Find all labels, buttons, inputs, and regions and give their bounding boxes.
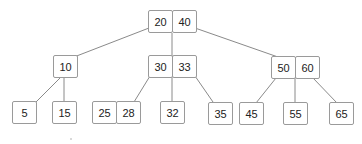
node-key: 35 — [208, 102, 233, 125]
tree-leaf-15: 15 — [52, 101, 77, 124]
node-key: 65 — [329, 102, 354, 125]
node-key: 5 — [12, 101, 37, 124]
tree-leaf-45: 45 — [239, 102, 264, 125]
edge-root-left — [74, 28, 149, 57]
tree-leaf-35: 35 — [208, 102, 233, 125]
node-key: 10 — [53, 55, 78, 78]
node-key: 32 — [160, 101, 185, 124]
tree-leaf-32: 32 — [160, 101, 185, 124]
node-key: 15 — [52, 101, 77, 124]
node-key: 25 — [92, 101, 117, 124]
node-key: 28 — [116, 101, 141, 124]
edge-right-45 — [256, 78, 276, 103]
node-key: 20 — [148, 10, 173, 33]
node-key: 30 — [148, 55, 173, 78]
edge-middle-25-28 — [134, 76, 150, 102]
node-key: 33 — [172, 55, 197, 78]
edge-left-5 — [36, 77, 61, 102]
tree-leaf-5: 5 — [12, 101, 37, 124]
node-key: 55 — [283, 102, 308, 125]
tree-node-middle: 30 33 — [148, 55, 197, 78]
stray-dot — [70, 138, 72, 140]
tree-node-left: 10 — [53, 55, 78, 78]
node-key: 40 — [172, 10, 197, 33]
tree-node-right: 50 60 — [271, 56, 320, 79]
edge-middle-35 — [195, 76, 213, 102]
node-key: 50 — [271, 56, 296, 79]
tree-leaf-65: 65 — [329, 102, 354, 125]
node-key: 60 — [295, 56, 320, 79]
edge-right-65 — [313, 78, 337, 103]
node-key: 45 — [239, 102, 264, 125]
tree-leaf-25-28: 25 28 — [92, 101, 141, 124]
tree-node-root: 20 40 — [148, 10, 197, 33]
tree-leaf-55: 55 — [283, 102, 308, 125]
edge-root-right — [195, 28, 278, 57]
